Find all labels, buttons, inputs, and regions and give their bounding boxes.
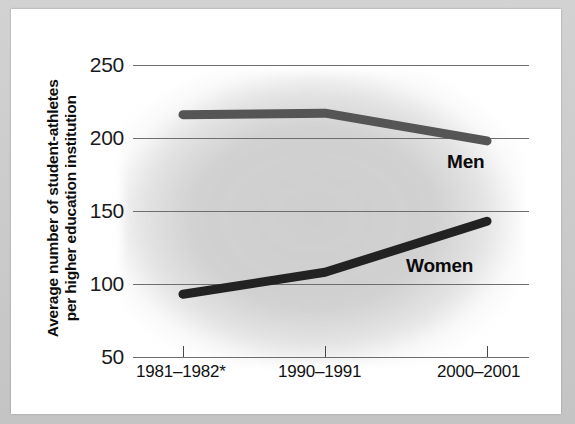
y-axis-title-line-1: Average number of student-athletes (44, 58, 62, 358)
line-series-men (183, 113, 487, 141)
y-axis-title-line-2: per higher education institution (62, 58, 80, 358)
chart-series-lines (0, 0, 575, 424)
chart-plot-area: 250 200 150 100 50 1981–1982* 1990–1991 … (0, 0, 575, 424)
series-label-men: Men (447, 151, 484, 173)
series-label-women: Women (406, 255, 473, 277)
y-axis-title: Average number of student-athletes per h… (44, 58, 81, 358)
figure-root: 250 200 150 100 50 1981–1982* 1990–1991 … (0, 0, 575, 424)
